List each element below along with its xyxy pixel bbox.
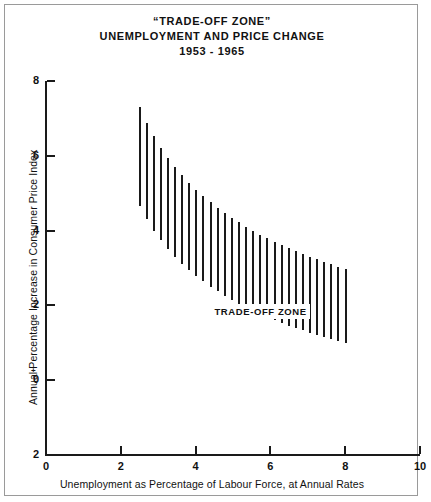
y-tick-mark xyxy=(47,454,55,456)
y-tick-mark xyxy=(47,80,55,82)
zone-bar xyxy=(231,218,233,300)
x-tick-label: 2 xyxy=(106,460,136,472)
x-tick-label: 0 xyxy=(31,460,61,472)
y-axis-line xyxy=(45,81,47,456)
zone-bar xyxy=(337,267,339,341)
zone-bar xyxy=(160,148,162,241)
plot-area: 86420+−20246810 TRADE-OFF ZONE Annual Pe… xyxy=(5,5,419,497)
x-tick-mark xyxy=(120,446,122,454)
zone-bar xyxy=(188,183,190,271)
x-tick-mark xyxy=(419,446,421,454)
y-tick-mark xyxy=(47,155,55,157)
zone-bar xyxy=(330,264,332,339)
x-axis-title: Unemployment as Percentage of Labour For… xyxy=(5,478,419,490)
zone-bar xyxy=(224,213,226,296)
zone-bar xyxy=(167,158,169,249)
y-tick-label: 8 xyxy=(13,74,39,86)
zone-bar xyxy=(146,123,148,219)
zone-bar xyxy=(195,190,197,276)
zone-bar xyxy=(238,222,240,303)
x-tick-label: 8 xyxy=(330,460,360,472)
zone-bar xyxy=(181,175,183,264)
chart-frame: “TRADE-OFF ZONE” UNEMPLOYMENT AND PRICE … xyxy=(4,4,418,496)
zone-bar xyxy=(202,196,204,281)
y-tick-label: 2 xyxy=(13,448,39,460)
x-tick-mark xyxy=(344,446,346,454)
x-axis-line xyxy=(45,454,420,456)
zone-bar xyxy=(316,259,318,335)
y-axis-title: Annual Percentage Increase in Consumer P… xyxy=(27,150,39,405)
zone-bar xyxy=(309,257,311,333)
zone-bar xyxy=(345,269,347,343)
zone-bar xyxy=(217,208,219,291)
x-tick-label: 6 xyxy=(255,460,285,472)
zone-bar xyxy=(210,202,212,287)
zone-bar xyxy=(245,227,247,307)
y-tick-mark xyxy=(47,304,55,306)
y-tick-mark xyxy=(47,379,55,381)
zone-bar xyxy=(153,136,155,230)
zone-bar xyxy=(174,167,176,257)
trade-off-zone-annotation: TRADE-OFF ZONE xyxy=(211,304,309,319)
x-tick-mark xyxy=(269,446,271,454)
y-tick-mark xyxy=(47,230,55,232)
zone-bar xyxy=(252,231,254,311)
x-tick-mark xyxy=(195,446,197,454)
zone-bar xyxy=(259,235,261,314)
x-tick-label: 4 xyxy=(181,460,211,472)
zone-bar xyxy=(323,262,325,337)
x-tick-label: 10 xyxy=(405,460,431,472)
zone-bar xyxy=(139,107,141,206)
